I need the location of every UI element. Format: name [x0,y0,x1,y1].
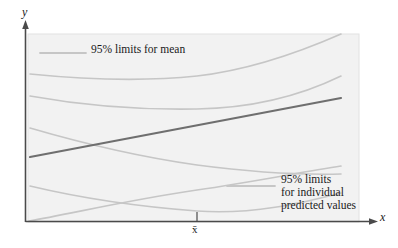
xbar-tick-label: x̄ [192,223,198,235]
y-axis-arrowhead [22,20,29,29]
y-axis-label: y [22,6,27,19]
x-axis-label: x [380,211,385,224]
legend-label-individual-line-3: predicted values [281,199,356,212]
legend-label-individual-limits: 95% limits for individual predicted valu… [281,173,356,212]
x-axis-arrowhead [369,218,378,225]
regression-confidence-band-figure: y x x̄ 95% limits for mean 95% limits fo… [0,0,398,248]
legend-label-individual-line-2: for individual [281,186,356,199]
legend-label-individual-line-1: 95% limits [281,173,356,186]
legend-label-mean-limits: 95% limits for mean [91,43,185,56]
